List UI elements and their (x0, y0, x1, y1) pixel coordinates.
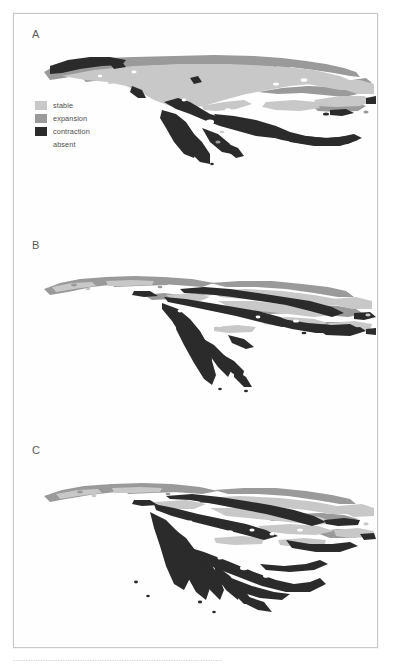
legend-label-absent: absent (53, 140, 76, 149)
legend-label-expansion: expansion (53, 114, 87, 123)
map-panel-c: C (14, 434, 377, 647)
map-panel-b: B (14, 229, 377, 434)
legend-swatch-expansion (35, 114, 47, 123)
map-canvas-c (14, 434, 377, 647)
legend-swatch-absent (35, 140, 47, 149)
figure-root: A (0, 0, 395, 667)
legend-label-stable: stable (53, 101, 73, 110)
panel-label-a: A (32, 28, 40, 40)
map-graphic-b (14, 229, 377, 434)
panel-label-b: B (32, 239, 40, 251)
map-canvas-b (14, 229, 377, 434)
legend-item-contraction: contraction (35, 125, 90, 138)
legend-item-absent: absent (35, 138, 90, 151)
map-graphic-c (14, 434, 377, 647)
panel-label-c: C (32, 444, 40, 456)
legend-swatch-stable (35, 101, 47, 110)
legend-label-contraction: contraction (53, 127, 90, 136)
legend-item-expansion: expansion (35, 112, 90, 125)
legend-item-stable: stable (35, 99, 90, 112)
figure-caption: ········································… (13, 656, 378, 667)
map-panel-a: A (14, 14, 377, 229)
figure-frame: A (13, 13, 378, 648)
legend-swatch-contraction (35, 127, 47, 136)
map-legend: stable expansion contraction absent (35, 99, 90, 151)
